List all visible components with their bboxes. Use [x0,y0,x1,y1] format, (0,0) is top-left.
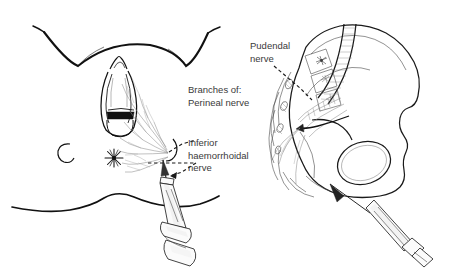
nerve-trunk-hatching [308,94,340,120]
mons-pubis-arch [44,32,208,66]
label-branches-line2: Perineal nerve [188,97,249,110]
label-branches-of: Branches of: Perineal nerve [188,84,249,109]
leader-pudendal-nerve [274,66,312,100]
inguinal-fold-right [208,27,220,33]
label-inferior-line2: haemorrhoidal [188,150,249,163]
skin-mark [58,144,74,163]
vertebral-hatching [321,28,356,100]
label-pudendal-line2: nerve [250,53,290,66]
label-pudendal-nerve: Pudendal nerve [250,40,290,65]
label-pudendal-line1: Pudendal [250,40,290,53]
label-branches-line1: Branches of: [188,84,249,97]
pudendal-nerve-block-figure: Branches of: Perineal nerve Inferior hae… [0,0,451,273]
sacral-foramen [316,56,327,65]
leader-arrow-inferior [170,172,177,179]
label-inferior-line1: Inferior [188,137,249,150]
obturator-foramen [332,135,396,192]
inferior-haemorrhoidal-branches [122,155,168,172]
label-inferior-haemorrhoidal: Inferior haemorrhoidal nerve [188,137,249,175]
label-inferior-line3: nerve [188,162,249,175]
gluteal-fold [12,194,219,212]
inguinal-fold-left [33,26,44,32]
syringe-left [160,160,196,266]
sacrum-and-spine [305,24,356,111]
pelvic-bone-view [269,24,433,267]
vulva [101,57,137,137]
vaginal-introitus [107,112,134,119]
